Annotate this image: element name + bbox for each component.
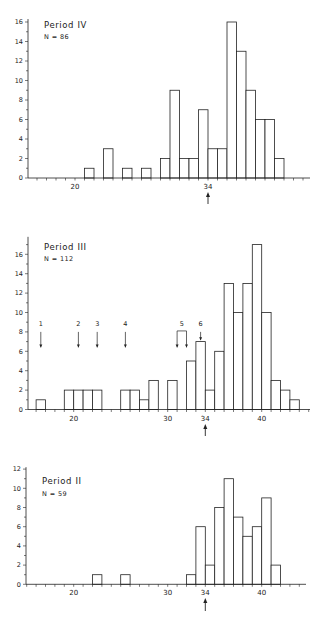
y-tick-label: 6	[17, 523, 21, 531]
bar	[168, 380, 177, 409]
y-tick-label: 4	[19, 367, 23, 375]
y-tick-label: 12	[15, 289, 23, 297]
bar	[187, 575, 196, 585]
bar	[262, 313, 271, 410]
bar	[93, 390, 102, 409]
bar	[83, 390, 92, 409]
x-tick-label: 30	[163, 415, 172, 423]
bar	[252, 527, 261, 585]
x-tick-label: 20	[71, 183, 80, 191]
bar	[271, 565, 280, 584]
panel-title: Period IV	[44, 20, 87, 30]
bar	[142, 168, 152, 178]
bar	[246, 90, 256, 178]
bar	[74, 390, 83, 409]
x-tick-label: 40	[257, 589, 266, 597]
arrow-head-icon	[185, 344, 188, 347]
y-tick-label: 0	[19, 174, 23, 182]
bar	[121, 390, 130, 409]
arrow-head-icon	[96, 344, 99, 347]
arrow-head-icon	[203, 424, 207, 429]
y-tick-label: 10	[13, 485, 21, 493]
marker-label: 5	[180, 320, 184, 328]
y-tick-label: 14	[15, 38, 23, 46]
bar	[290, 400, 299, 410]
x-tick-label: 34	[201, 589, 210, 597]
bar	[275, 159, 285, 179]
y-tick-label: 2	[19, 155, 23, 163]
y-tick-label: 14	[15, 270, 23, 278]
bar	[227, 22, 237, 178]
bar	[123, 168, 133, 178]
bars	[93, 479, 281, 585]
bar	[121, 575, 130, 585]
sample-size-label: N = 59	[42, 490, 67, 498]
bar	[196, 527, 205, 585]
bar	[256, 120, 266, 179]
x-tick-label: 40	[257, 415, 266, 423]
arrow-head-icon	[203, 598, 207, 603]
panel-period-ii: 02468101220303440Period IIN = 59	[13, 465, 306, 611]
bar	[205, 390, 214, 409]
bar	[149, 380, 158, 409]
panel-period-iii: 024681012141620303440Period IIIN = 11212…	[15, 237, 310, 436]
sample-size-label: N = 86	[44, 33, 69, 41]
bar	[252, 245, 261, 410]
panel-period-iv: 02468101214162034Period IVN = 86	[15, 18, 310, 204]
marker-label: 1	[39, 320, 43, 328]
arrow-head-icon	[206, 192, 210, 197]
y-tick-label: 12	[13, 465, 21, 473]
x-tick-label: 34	[201, 415, 210, 423]
bar	[205, 565, 214, 584]
y-tick-label: 8	[17, 504, 21, 512]
bracket-arrow-icon	[177, 331, 186, 347]
bar	[234, 517, 243, 584]
panel-title: Period III	[44, 242, 87, 252]
arrow-head-icon	[124, 344, 127, 347]
bar	[262, 498, 271, 584]
bar	[208, 149, 218, 178]
bar	[224, 283, 233, 409]
x-tick-label: 20	[69, 589, 78, 597]
y-tick-label: 0	[17, 581, 21, 589]
y-tick-label: 0	[19, 406, 23, 414]
bar	[161, 159, 171, 179]
sample-size-label: N = 112	[44, 255, 74, 263]
bar	[281, 390, 290, 409]
y-tick-label: 12	[15, 57, 23, 65]
bar	[271, 380, 280, 409]
bar	[130, 390, 139, 409]
y-tick-label: 2	[19, 386, 23, 394]
bar	[36, 400, 45, 410]
bar	[187, 361, 196, 410]
bar	[243, 536, 252, 584]
arrow-head-icon	[199, 337, 202, 340]
bar	[104, 149, 114, 178]
bar	[224, 479, 233, 585]
bar	[189, 159, 199, 179]
bar	[199, 110, 209, 178]
bar	[93, 575, 102, 585]
y-tick-label: 10	[15, 77, 23, 85]
y-tick-label: 10	[15, 309, 23, 317]
arrow-head-icon	[39, 344, 42, 347]
y-tick-label: 8	[19, 96, 23, 104]
bar	[64, 390, 73, 409]
marker-label: 6	[199, 320, 203, 328]
bar	[237, 51, 247, 178]
marker-label: 2	[76, 320, 80, 328]
bar	[140, 400, 149, 410]
annotation-markers: 123456	[39, 320, 203, 347]
y-tick-label: 16	[15, 18, 23, 26]
y-tick-label: 6	[19, 116, 23, 124]
marker-label: 3	[95, 320, 99, 328]
panel-title: Period II	[42, 476, 82, 486]
bar	[196, 342, 205, 410]
bar	[234, 313, 243, 410]
bar	[180, 159, 190, 179]
y-tick-label: 4	[17, 542, 21, 550]
bar	[243, 283, 252, 409]
arrow-head-icon	[176, 344, 179, 347]
y-tick-label: 6	[19, 348, 23, 356]
histogram-canvas: 02468101214162034Period IVN = 86 0246810…	[0, 0, 319, 620]
